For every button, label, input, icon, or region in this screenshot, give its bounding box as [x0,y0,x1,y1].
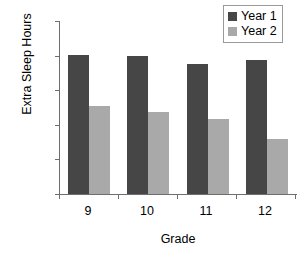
x-tick-label-1: 10 [127,204,167,218]
y-axis-title: Extra Sleep Hours [20,0,36,144]
y-tick-4 [55,56,60,57]
legend-label-year2: Year 2 [241,25,277,38]
y-tick-5 [55,21,60,22]
x-tick-0 [59,194,60,199]
x-tick-2 [177,194,178,199]
bar-chart: Extra Sleep Hours 0 0.5 1 1.5 2 2.5 9 10… [0,0,302,261]
bar-year2-grade10 [148,112,169,194]
legend-swatch-year1 [228,12,237,21]
plot-area: 0 0.5 1 1.5 2 2.5 9 10 11 12 [59,21,297,195]
bar-year2-grade11 [208,119,229,194]
bar-year1-grade10 [127,56,148,194]
x-tick-label-0: 9 [68,204,108,218]
bar-year2-grade9 [89,106,110,194]
legend-item-year2: Year 2 [228,24,277,39]
x-tick-3 [236,194,237,199]
x-tick-1 [118,194,119,199]
chart-legend: Year 1 Year 2 [223,5,283,43]
legend-item-year1: Year 1 [228,9,277,24]
x-tick-4 [295,194,296,199]
x-axis-title: Grade [59,232,297,246]
bar-year1-grade12 [246,60,267,194]
legend-swatch-year2 [228,27,237,36]
x-tick-label-2: 11 [186,204,226,218]
x-tick-label-3: 12 [245,204,285,218]
y-tick-3 [55,90,60,91]
x-axis-line [59,194,297,195]
y-tick-2 [55,125,60,126]
bar-year1-grade9 [68,55,89,194]
y-axis-line [59,21,60,195]
y-tick-1 [55,159,60,160]
bar-year2-grade12 [267,139,288,194]
bar-year1-grade11 [187,64,208,194]
legend-label-year1: Year 1 [241,10,277,23]
